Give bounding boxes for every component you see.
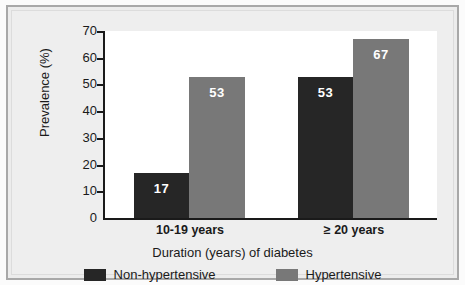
y-tick-60: 60 <box>48 58 97 59</box>
category-label-20plus: ≥ 20 years <box>298 223 410 237</box>
bar-value-label: 53 <box>298 85 353 100</box>
y-tick-0: 0 <box>48 218 97 219</box>
legend: Non-hypertensive Hypertensive <box>12 267 453 282</box>
y-tick-70: 70 <box>48 31 97 32</box>
legend-swatch-icon <box>276 269 298 281</box>
legend-item-non-hypertensive[interactable]: Non-hypertensive <box>84 267 216 282</box>
y-tick-40: 40 <box>48 111 97 112</box>
y-tick-30: 30 <box>48 138 97 139</box>
x-axis-title: Duration (years) of diabetes <box>12 245 453 260</box>
legend-label: Hypertensive <box>306 267 382 282</box>
x-axis-line <box>103 218 437 220</box>
y-tick-50: 50 <box>48 84 97 85</box>
y-axis-title: Prevalence (%) <box>37 18 52 168</box>
bar-value-label: 67 <box>353 47 409 62</box>
figure-root: Prevalence (%) 70 60 50 40 30 20 10 <box>0 0 465 285</box>
legend-swatch-icon <box>84 269 106 281</box>
figure-frame-outer: Prevalence (%) 70 60 50 40 30 20 10 <box>6 5 459 280</box>
bar-value-label: 53 <box>189 85 245 100</box>
bar-value-label: 17 <box>134 181 189 196</box>
y-tick-20: 20 <box>48 165 97 166</box>
figure-frame-inner: Prevalence (%) 70 60 50 40 30 20 10 <box>11 10 454 275</box>
y-axis-line <box>103 31 105 220</box>
category-label-10-19: 10-19 years <box>134 223 246 237</box>
y-tick-10: 10 <box>48 191 97 192</box>
bar-non-hypertensive-20plus[interactable]: 53 <box>298 77 353 219</box>
legend-item-hypertensive[interactable]: Hypertensive <box>276 267 382 282</box>
plot-area: 17 53 53 67 <box>105 31 437 219</box>
bar-hypertensive-10-19[interactable]: 53 <box>189 77 245 219</box>
bar-hypertensive-20plus[interactable]: 67 <box>353 39 409 219</box>
legend-label: Non-hypertensive <box>114 267 216 282</box>
bar-non-hypertensive-10-19[interactable]: 17 <box>134 173 189 219</box>
